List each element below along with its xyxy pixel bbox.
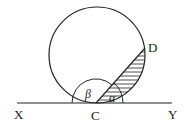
label-x: X <box>14 108 23 121</box>
label-alpha: α <box>109 92 115 104</box>
geometry-diagram: X Y C D β α <box>0 0 189 129</box>
label-y: Y <box>168 108 177 121</box>
label-beta: β <box>85 88 91 100</box>
label-c: C <box>91 109 100 122</box>
label-d: D <box>148 41 157 54</box>
